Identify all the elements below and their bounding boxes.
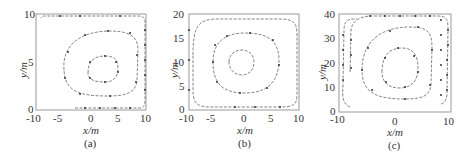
- plot-area-a: [0, 0, 155, 157]
- y-tick: 15: [173, 33, 184, 44]
- trajectory-inner-loop: [382, 48, 418, 88]
- panel-b: 20 15 10 5 0 -10 -5 0 5 10 x/m y/m (b): [155, 0, 310, 157]
- y-axis-label: y/m: [316, 64, 328, 80]
- trajectory-inner-loop: [88, 56, 118, 82]
- x-tick: 5: [115, 113, 121, 124]
- x-axis-label: x/m: [387, 126, 403, 138]
- y-axis-label: y/m: [168, 62, 180, 78]
- x-tick: 10: [140, 113, 151, 124]
- y-tick: 20: [173, 9, 184, 20]
- trajectory-left-edge: [343, 19, 357, 107]
- x-axis-label: x/m: [83, 124, 99, 136]
- x-axis-label: x/m: [237, 124, 253, 136]
- x-tick: -10: [26, 113, 41, 124]
- plot-area-b: [155, 0, 310, 157]
- trajectory-inner-loop: [229, 50, 254, 75]
- x-tick: -5: [206, 113, 215, 124]
- panel-caption: (b): [238, 137, 251, 149]
- trajectory-markers: [59, 15, 146, 109]
- y-tick: 40: [324, 9, 335, 20]
- x-tick: -10: [179, 113, 194, 124]
- y-axis-label: y/m: [17, 62, 29, 78]
- trajectory-middle-loop: [362, 27, 432, 99]
- plot-frame: [339, 14, 451, 112]
- y-tick: 10: [324, 82, 335, 93]
- plot-frame: [189, 14, 299, 110]
- x-tick: -5: [53, 113, 62, 124]
- trajectory-markers: [188, 29, 281, 108]
- panel-a: 10 5 0 -10 -5 0 5 10 x/m y/m (a): [0, 0, 155, 157]
- x-tick: 0: [88, 113, 94, 124]
- x-tick: 0: [241, 113, 247, 124]
- x-tick: 10: [293, 113, 304, 124]
- y-tick: 5: [179, 81, 185, 92]
- trajectory-top-right-edge: [350, 16, 448, 104]
- x-tick: 10: [443, 116, 454, 127]
- trajectory-outer-loop: [193, 19, 297, 107]
- x-tick: 5: [268, 113, 274, 124]
- x-tick: -10: [330, 114, 345, 125]
- panel-caption: (a): [84, 137, 96, 149]
- trajectory-middle-loop: [64, 31, 138, 96]
- trajectory-outer-boundary: [41, 16, 145, 108]
- trajectory-middle-loop: [213, 33, 279, 93]
- y-tick: 10: [24, 9, 35, 20]
- y-tick: 30: [324, 33, 335, 44]
- panel-caption: (c): [388, 139, 400, 151]
- panel-c: 40 30 20 10 0 -10 0 10 x/m y/m (c): [310, 0, 469, 157]
